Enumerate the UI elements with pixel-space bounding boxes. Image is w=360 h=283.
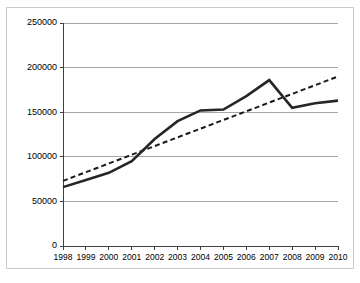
- chart-frame: 050000100000150000200000250000 199819992…: [6, 7, 354, 269]
- x-tick-label: 2010: [329, 252, 348, 262]
- y-tick-label: 0: [52, 240, 57, 250]
- data-series: [63, 80, 338, 187]
- x-tick-label: 2009: [306, 252, 325, 262]
- line-chart: 050000100000150000200000250000 199819992…: [7, 8, 353, 268]
- y-axis-tick-labels: 050000100000150000200000250000: [27, 17, 57, 250]
- x-tick-label: 2000: [99, 252, 118, 262]
- x-tick-label: 1999: [76, 252, 95, 262]
- y-tick-label: 50000: [32, 196, 57, 206]
- x-tick-label: 2004: [191, 252, 210, 262]
- x-tick-label: 2003: [168, 252, 187, 262]
- trendline-series: [63, 77, 338, 181]
- y-tick-label: 200000: [27, 62, 57, 72]
- x-axis-tickmarks: [63, 246, 338, 250]
- x-tick-label: 1998: [54, 252, 73, 262]
- x-tick-label: 2002: [145, 252, 164, 262]
- x-tick-label: 2008: [283, 252, 302, 262]
- x-tick-label: 2005: [214, 252, 233, 262]
- y-tick-label: 250000: [27, 17, 57, 27]
- y-tick-label: 100000: [27, 151, 57, 161]
- x-tick-label: 2001: [122, 252, 141, 262]
- y-tick-label: 150000: [27, 107, 57, 117]
- x-axis-tick-labels: 1998199920002001200220032004200520062007…: [54, 252, 348, 262]
- x-tick-label: 2007: [260, 252, 279, 262]
- x-tick-label: 2006: [237, 252, 256, 262]
